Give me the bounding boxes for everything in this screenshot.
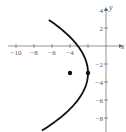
y-tick-label: −2 bbox=[96, 61, 104, 69]
parabola-chart: −10−8−6−442−2−4−6−8 x y bbox=[0, 0, 126, 132]
y-tick-label: 4 bbox=[100, 7, 104, 15]
x-tick-label: −6 bbox=[48, 49, 56, 57]
x-tick-label: −4 bbox=[66, 49, 74, 57]
y-tick-label: −8 bbox=[96, 115, 104, 123]
data-points bbox=[68, 71, 90, 75]
y-tick-label: −4 bbox=[96, 79, 104, 87]
x-tick-label: −10 bbox=[11, 49, 22, 57]
y-tick-label: 2 bbox=[100, 25, 104, 33]
ticks: −10−8−6−442−2−4−6−8 bbox=[11, 7, 108, 123]
x-tick-label: −8 bbox=[30, 49, 38, 57]
x-axis-label: x bbox=[120, 42, 125, 51]
y-axis-arrow-icon bbox=[104, 7, 108, 11]
y-tick-label: −6 bbox=[96, 97, 104, 105]
parabola-curve bbox=[42, 20, 88, 131]
vertex-point bbox=[86, 71, 90, 75]
focus-point bbox=[68, 71, 72, 75]
y-axis-label: y bbox=[108, 3, 113, 12]
